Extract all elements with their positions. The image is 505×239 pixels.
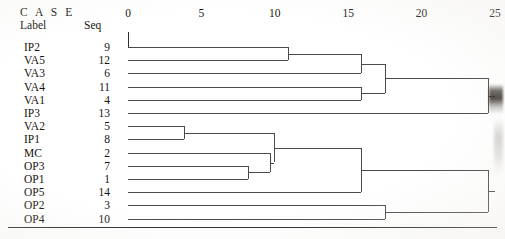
dendrogram-branch-horizontal — [128, 100, 361, 101]
dendrogram-branch-horizontal — [288, 54, 361, 55]
leaf-seq: 1 — [84, 173, 110, 185]
dendrogram-branch-horizontal — [128, 113, 488, 114]
dendrogram-branch-horizontal — [128, 179, 248, 180]
dendrogram-branch-horizontal — [128, 153, 270, 154]
dendrogram-root-arm — [488, 191, 495, 192]
dendrogram-figure: C A S E Label Seq 0510152025 IP29VA512VA… — [0, 0, 505, 239]
leaf-label: OP5 — [24, 186, 44, 198]
column-header-seq: Seq — [84, 19, 101, 31]
dendrogram-branch-horizontal — [128, 139, 184, 140]
dendrogram-branch-horizontal — [128, 126, 184, 127]
axis-tick-mark — [128, 32, 129, 47]
leaf-seq: 2 — [84, 147, 110, 159]
leaf-seq: 12 — [84, 54, 110, 66]
dendrogram-branch-horizontal — [128, 47, 288, 48]
axis-tick-label: 15 — [342, 7, 354, 19]
dendrogram-branch-horizontal — [184, 133, 274, 134]
leaf-label: OP1 — [24, 173, 44, 185]
dendrogram-branch-horizontal — [270, 163, 274, 164]
dendrogram-branch-horizontal — [361, 170, 487, 171]
column-header-label: Label — [20, 19, 46, 31]
axis-tick-label: 0 — [125, 7, 131, 19]
leaf-seq: 10 — [84, 213, 110, 225]
leaf-label: VA3 — [24, 67, 45, 79]
leaf-seq: 11 — [84, 81, 110, 93]
leaf-label: IP1 — [24, 133, 40, 145]
leaf-label: IP2 — [24, 41, 40, 53]
leaf-seq: 6 — [84, 67, 110, 79]
axis-tick-label: 20 — [416, 7, 428, 19]
leaf-label: IP3 — [24, 107, 40, 119]
leaf-label: VA2 — [24, 120, 45, 132]
axis-tick-label: 5 — [199, 7, 205, 19]
leaf-seq: 4 — [84, 94, 110, 106]
dendrogram-branch-horizontal — [385, 212, 488, 213]
dendrogram-branch-horizontal — [385, 78, 488, 79]
dendrogram-branch-horizontal — [128, 87, 361, 88]
dendrogram-branch-horizontal — [128, 73, 361, 74]
leaf-seq: 9 — [84, 41, 110, 53]
dendrogram-branch-horizontal — [248, 172, 270, 173]
leaf-seq: 8 — [84, 133, 110, 145]
leaf-seq: 7 — [84, 160, 110, 172]
dendrogram-branch-horizontal — [361, 64, 384, 65]
leaf-label: VA1 — [24, 94, 45, 106]
dendrogram-branch-horizontal — [128, 205, 385, 206]
scan-smudge-artifact — [489, 84, 503, 114]
leaf-label: VA4 — [24, 81, 45, 93]
bottom-rule — [8, 227, 497, 228]
leaf-seq: 13 — [84, 107, 110, 119]
dendrogram-branch-horizontal — [128, 166, 248, 167]
paper-tint-overlay — [0, 0, 505, 239]
leaf-seq: 14 — [84, 186, 110, 198]
leaf-label: OP4 — [24, 213, 44, 225]
leaf-label: MC — [24, 147, 42, 159]
dendrogram-branch-horizontal — [128, 219, 385, 220]
dendrogram-root-arm — [488, 96, 495, 97]
dendrogram-branch-horizontal — [128, 192, 361, 193]
dendrogram-branch-horizontal — [274, 148, 361, 149]
dendrogram-branch-horizontal — [128, 60, 288, 61]
leaf-label: VA5 — [24, 54, 45, 66]
scan-smudge-artifact-secondary — [494, 118, 503, 174]
case-header: C A S E — [20, 6, 75, 18]
leaf-seq: 3 — [84, 199, 110, 211]
axis-tick-label: 10 — [269, 7, 281, 19]
dendrogram-branch-horizontal — [361, 93, 384, 94]
leaf-label: OP2 — [24, 199, 44, 211]
axis-tick-label: 25 — [489, 7, 501, 19]
leaf-label: OP3 — [24, 160, 44, 172]
leaf-seq: 5 — [84, 120, 110, 132]
